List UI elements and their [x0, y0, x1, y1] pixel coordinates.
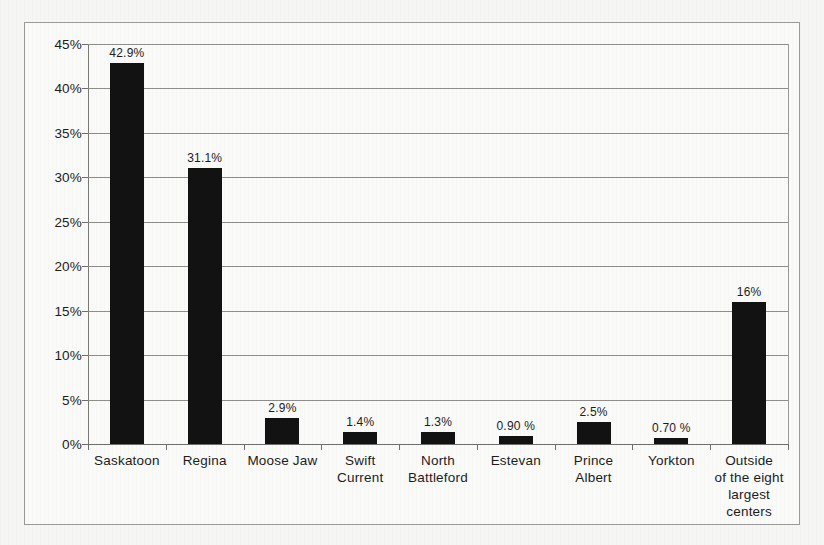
- y-axis-label-group: 0%5%10%15%20%25%30%35%40%45%: [30, 0, 82, 545]
- bar-value-label: 1.3%: [424, 415, 452, 429]
- bar-group: 1.4%: [343, 44, 377, 444]
- category-label-line: Swift: [321, 452, 399, 469]
- y-tick-label: 30%: [54, 170, 82, 185]
- y-tick-mark: [82, 44, 88, 45]
- category-label-line: Prince: [555, 452, 633, 469]
- bar: [110, 63, 144, 444]
- y-tick-label: 10%: [54, 348, 82, 363]
- bar-group: 42.9%: [110, 44, 144, 444]
- bar-group: 0.70 %: [654, 44, 688, 444]
- bar-value-label: 31.1%: [187, 151, 222, 165]
- bar-group: 2.9%: [265, 44, 299, 444]
- bar-value-label: 0.70 %: [652, 421, 691, 435]
- bar-value-label: 42.9%: [109, 46, 144, 60]
- category-label-line: Regina: [166, 452, 244, 469]
- y-tick-label: 15%: [54, 303, 82, 318]
- bar-group: 31.1%: [188, 44, 222, 444]
- category-label-line: Current: [321, 469, 399, 486]
- category-label-line: Saskatoon: [88, 452, 166, 469]
- y-tick-label: 35%: [54, 125, 82, 140]
- bar-group: 1.3%: [421, 44, 455, 444]
- y-tick-mark: [82, 400, 88, 401]
- bar: [188, 168, 222, 444]
- category-label: PrinceAlbert: [555, 452, 633, 486]
- category-label: Regina: [166, 452, 244, 469]
- y-tick-label: 40%: [54, 81, 82, 96]
- category-label-line: Albert: [555, 469, 633, 486]
- plot-area: 42.9%31.1%2.9%1.4%1.3%0.90 %2.5%0.70 %16…: [88, 44, 788, 444]
- category-label-line: Yorkton: [632, 452, 710, 469]
- bar: [732, 302, 766, 444]
- bar-value-label: 2.9%: [268, 401, 296, 415]
- category-label-line: Estevan: [477, 452, 555, 469]
- plot-right-edge: [788, 44, 789, 445]
- category-label: Outsideof the eightlargest centers: [710, 452, 788, 520]
- category-label: Estevan: [477, 452, 555, 469]
- bar: [499, 436, 533, 444]
- category-label-line: of the eight: [710, 469, 788, 486]
- x-tick-mark: [88, 444, 89, 450]
- bar-value-label: 2.5%: [579, 405, 607, 419]
- bar: [654, 438, 688, 444]
- category-label: Yorkton: [632, 452, 710, 469]
- x-tick-mark: [788, 444, 789, 450]
- x-tick-mark: [166, 444, 167, 450]
- bar-group: 0.90 %: [499, 44, 533, 444]
- bar-value-label: 16%: [737, 285, 762, 299]
- category-label: Moose Jaw: [244, 452, 322, 469]
- y-tick-label: 25%: [54, 214, 82, 229]
- category-label-line: Outside: [710, 452, 788, 469]
- bar-value-label: 0.90 %: [496, 419, 535, 433]
- x-tick-mark: [399, 444, 400, 450]
- y-tick-mark: [82, 88, 88, 89]
- x-tick-mark: [321, 444, 322, 450]
- bar: [577, 422, 611, 444]
- category-label-line: largest centers: [710, 486, 788, 520]
- category-label-line: Moose Jaw: [244, 452, 322, 469]
- bar-value-label: 1.4%: [346, 415, 374, 429]
- gridline-0: [88, 444, 788, 445]
- y-tick-label: 5%: [62, 392, 82, 407]
- category-label-line: Battleford: [399, 469, 477, 486]
- bar: [421, 432, 455, 444]
- y-tick-label: 20%: [54, 259, 82, 274]
- y-tick-mark: [82, 266, 88, 267]
- y-tick-mark: [82, 311, 88, 312]
- x-tick-mark: [555, 444, 556, 450]
- bar: [343, 432, 377, 444]
- y-tick-mark: [82, 177, 88, 178]
- category-label: Saskatoon: [88, 452, 166, 469]
- y-tick-mark: [82, 222, 88, 223]
- category-label-line: North: [399, 452, 477, 469]
- bar: [265, 418, 299, 444]
- x-tick-mark: [632, 444, 633, 450]
- y-tick-label: 0%: [62, 437, 82, 452]
- y-tick-label: 45%: [54, 37, 82, 52]
- bar-group: 16%: [732, 44, 766, 444]
- bar-group: 2.5%: [577, 44, 611, 444]
- category-label: SwiftCurrent: [321, 452, 399, 486]
- x-tick-mark: [244, 444, 245, 450]
- x-tick-mark: [477, 444, 478, 450]
- y-tick-mark: [82, 355, 88, 356]
- x-tick-mark: [710, 444, 711, 450]
- y-tick-mark: [82, 133, 88, 134]
- category-label: NorthBattleford: [399, 452, 477, 486]
